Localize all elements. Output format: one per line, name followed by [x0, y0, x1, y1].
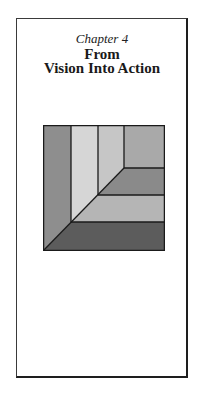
chapter-label: Chapter 4: [16, 32, 188, 46]
top-right-shape: [124, 125, 165, 168]
title-line-1: From: [16, 47, 188, 61]
chapter-title: From Vision Into Action: [16, 47, 188, 75]
quilt-figure: [43, 125, 165, 251]
title-line-2: Vision Into Action: [16, 61, 188, 75]
